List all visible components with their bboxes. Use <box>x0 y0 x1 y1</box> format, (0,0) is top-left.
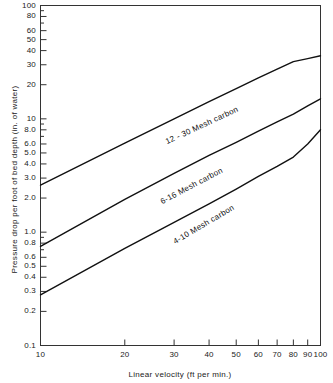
y-tick-label: 80 <box>0 12 36 20</box>
series-line-2 <box>41 130 321 295</box>
x-tick-label: 100 <box>314 351 328 359</box>
x-tick-label: 10 <box>36 351 45 359</box>
x-tick-label: 60 <box>254 351 263 359</box>
y-axis-title: Pressure drop per foot of bed depth (in.… <box>10 80 19 280</box>
x-tick-label: 80 <box>289 351 298 359</box>
y-tick-label: 50 <box>0 36 36 44</box>
y-tick-label: 30 <box>0 61 36 69</box>
x-tick-label: 40 <box>204 351 213 359</box>
y-tick-label: 0.3 <box>0 287 36 295</box>
y-tick-label: 0.1 <box>0 342 36 350</box>
x-tick-label: 20 <box>120 351 129 359</box>
x-tick-label: 70 <box>272 351 281 359</box>
y-tick-label: 40 <box>0 47 36 55</box>
y-tick-label: 60 <box>0 27 36 35</box>
series-line-1 <box>41 99 321 246</box>
x-tick-label: 90 <box>303 351 312 359</box>
chart-figure: 0.10.20.30.40.50.60.81.02.03.04.05.06.08… <box>0 0 333 383</box>
chart-plot-area <box>0 0 333 383</box>
x-axis-title: Linear velocity (ft per min.) <box>129 370 232 379</box>
y-tick-label: 0.2 <box>0 307 36 315</box>
x-axis-ticks <box>41 340 321 346</box>
x-tick-label: 50 <box>232 351 241 359</box>
x-tick-label: 30 <box>169 351 178 359</box>
plot-frame <box>41 6 321 346</box>
series-lines-group <box>41 56 321 295</box>
y-tick-label: 100 <box>0 2 36 10</box>
